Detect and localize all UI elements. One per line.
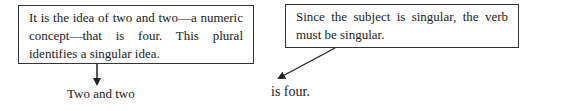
sentence-predicate: is four. [271,84,310,100]
sentence-subject: Two and two [67,86,135,102]
arrow-to-predicate [279,48,335,78]
